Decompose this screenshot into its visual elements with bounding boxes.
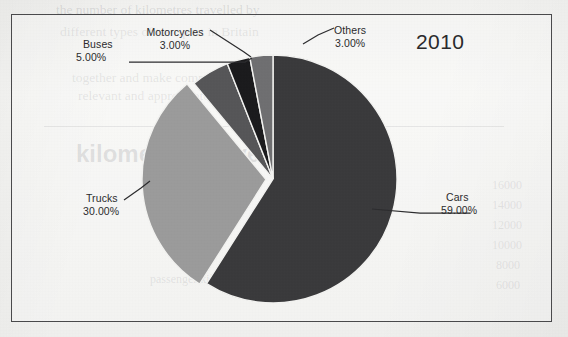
leader-line-buses <box>129 58 252 62</box>
slice-label-others-name: Others <box>334 24 366 37</box>
leader-line-motorcycles <box>210 30 251 57</box>
slice-label-trucks-value: 30.00% <box>83 205 119 218</box>
slice-label-trucks: Trucks 30.00% <box>83 192 119 218</box>
slice-label-buses: Buses 5.00% <box>76 38 113 64</box>
slice-label-motorcycles: Motorcycles 3.00% <box>139 26 211 52</box>
chart-screenshot: the number of kilometres travelled by di… <box>0 0 568 337</box>
slice-label-buses-name: Buses <box>83 38 113 51</box>
slice-label-others: Others 3.00% <box>334 24 366 50</box>
slice-label-cars: Cars 59.00% <box>441 191 477 217</box>
slice-label-buses-value: 5.00% <box>76 51 113 64</box>
slice-label-cars-name: Cars <box>446 191 477 204</box>
slice-label-trucks-name: Trucks <box>86 192 119 205</box>
chart-year-title: 2010 <box>416 30 464 54</box>
slice-label-motorcycles-name: Motorcycles <box>139 26 211 39</box>
pie-slices-group <box>142 55 397 303</box>
slice-label-cars-value: 59.00% <box>441 204 477 217</box>
slice-label-motorcycles-value: 3.00% <box>139 39 211 52</box>
leader-line-others <box>303 28 334 44</box>
slice-label-others-value: 3.00% <box>335 37 366 50</box>
